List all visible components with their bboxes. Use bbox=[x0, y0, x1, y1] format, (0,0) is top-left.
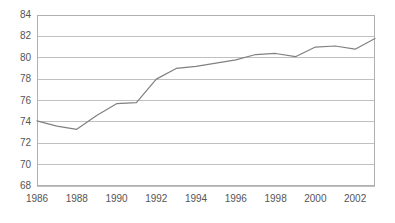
chart-canvas bbox=[0, 0, 395, 223]
line-chart: 687072747678808284 198619881990199219941… bbox=[0, 0, 395, 223]
data-series bbox=[37, 39, 375, 130]
series-line-1 bbox=[37, 39, 375, 130]
gridlines bbox=[37, 36, 375, 186]
plot-area bbox=[0, 0, 395, 223]
